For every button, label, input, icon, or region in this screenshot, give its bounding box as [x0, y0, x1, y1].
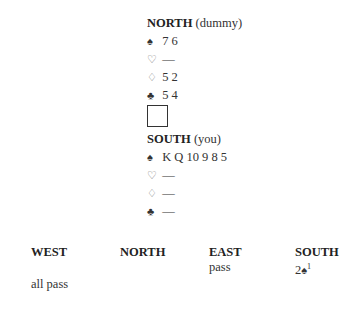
footnote-marker: 1 [307, 262, 311, 271]
heart-icon: ♡ [147, 166, 159, 184]
north-hand: NORTH (dummy) ♠ 7 6 ♡ — ♢ 5 2 ♣ 5 4 [147, 14, 242, 104]
south-spades: ♠ K Q 10 9 8 5 [147, 148, 227, 166]
diamond-icon: ♢ [147, 184, 159, 202]
spade-icon: ♠ [147, 148, 159, 166]
north-label: NORTH [147, 16, 192, 30]
north-note: (dummy) [196, 16, 243, 30]
spade-icon: ♠ [147, 32, 159, 50]
table-box [147, 105, 168, 127]
club-icon: ♣ [147, 202, 159, 220]
auction-south-bid-1: 2♠1 [295, 259, 311, 278]
auction-header-west: WEST [31, 244, 67, 260]
north-diamonds: ♢ 5 2 [147, 68, 242, 86]
south-clubs: ♣ — [147, 202, 227, 220]
south-note: (you) [194, 132, 221, 146]
north-spades: ♠ 7 6 [147, 32, 242, 50]
diamond-icon: ♢ [147, 68, 159, 86]
south-title: SOUTH (you) [147, 130, 227, 148]
south-hand: SOUTH (you) ♠ K Q 10 9 8 5 ♡ — ♢ — ♣ — [147, 130, 227, 220]
north-title: NORTH (dummy) [147, 14, 242, 32]
auction-east-bid-1: pass [209, 259, 231, 275]
heart-icon: ♡ [147, 50, 159, 68]
auction-header-north: NORTH [120, 244, 165, 260]
auction-west-bid-2: all pass [31, 276, 68, 292]
south-hearts: ♡ — [147, 166, 227, 184]
club-icon: ♣ [147, 86, 159, 104]
south-label: SOUTH [147, 132, 191, 146]
auction-header-east: EAST [209, 244, 242, 260]
north-clubs: ♣ 5 4 [147, 86, 242, 104]
south-diamonds: ♢ — [147, 184, 227, 202]
north-hearts: ♡ — [147, 50, 242, 68]
auction-header-south: SOUTH [295, 244, 339, 260]
